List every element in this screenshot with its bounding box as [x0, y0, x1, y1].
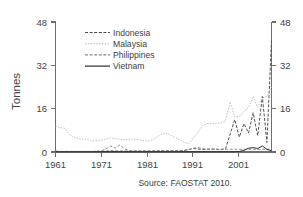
y-tick-label-32: 32: [36, 60, 47, 71]
y-tick-label-right-48: 48: [280, 17, 291, 28]
y-tick-label-0: 0: [42, 147, 47, 158]
x-ticks: [56, 152, 239, 157]
x-tick-label-2001: 2001: [228, 159, 249, 170]
y-tick-label-16: 16: [36, 103, 47, 114]
y-tick-label-right-0: 0: [280, 147, 285, 158]
legend-label-malaysia: Malaysia: [113, 39, 147, 49]
x-tick-label-1961: 1961: [45, 159, 66, 170]
y-tick-label-48: 48: [36, 17, 47, 28]
right-y-ticks: [272, 22, 277, 152]
chart-figure: Tonnes 0 16 32 48 0 16 32 48: [0, 0, 303, 197]
series-line-indonesia: [56, 41, 272, 152]
x-tick-label-1991: 1991: [182, 159, 203, 170]
y-tick-label-right-32: 32: [280, 60, 291, 71]
y-tick-label-right-16: 16: [280, 103, 291, 114]
left-y-ticks: [51, 22, 56, 152]
y-axis-title: Tonnes: [10, 73, 22, 110]
series-line-philippines: [56, 145, 272, 152]
legend-label-vietnam: Vietnam: [113, 61, 144, 71]
source-note: Source: FAOSTAT 2010.: [138, 178, 232, 188]
series-group: [56, 41, 272, 152]
x-tick-label-1981: 1981: [137, 159, 158, 170]
chart-legend: IndonesiaMalaysiaPhilippinesVietnam: [85, 28, 155, 72]
line-chart: Tonnes 0 16 32 48 0 16 32 48: [0, 0, 303, 197]
legend-label-indonesia: Indonesia: [113, 28, 150, 38]
legend-label-philippines: Philippines: [113, 50, 155, 60]
x-tick-label-1971: 1971: [91, 159, 112, 170]
